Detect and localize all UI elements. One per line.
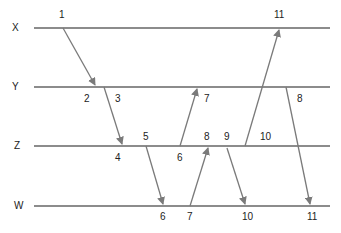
message-arrow-z-to-w — [227, 148, 245, 204]
event-label: 7 — [187, 212, 193, 222]
event-label: 7 — [204, 94, 210, 104]
event-label: 10 — [260, 132, 271, 142]
event-label: 1 — [59, 10, 65, 20]
message-arrow-x-to-y — [63, 28, 95, 85]
event-label: 11 — [274, 10, 284, 20]
event-label: 9 — [224, 132, 230, 142]
message-arrow-w-to-z — [190, 148, 208, 206]
message-arrow-z-to-w — [146, 146, 163, 204]
event-label: 10 — [242, 212, 253, 222]
message-arrows — [63, 28, 310, 206]
event-label: 6 — [177, 153, 183, 163]
event-label: 3 — [115, 94, 121, 104]
process-label-y: Y — [12, 82, 19, 92]
process-label-w: W — [14, 201, 23, 211]
event-label: 4 — [115, 153, 121, 163]
diagram-canvas — [0, 0, 341, 233]
process-label-x: X — [12, 23, 19, 33]
event-label: 2 — [84, 94, 90, 104]
event-label: 11 — [307, 212, 317, 222]
event-label: 8 — [204, 132, 210, 142]
process-label-z: Z — [14, 141, 20, 151]
event-label: 8 — [297, 94, 303, 104]
event-label: 6 — [160, 212, 166, 222]
message-arrow-z-to-y — [180, 89, 197, 146]
event-label: 5 — [143, 132, 149, 142]
